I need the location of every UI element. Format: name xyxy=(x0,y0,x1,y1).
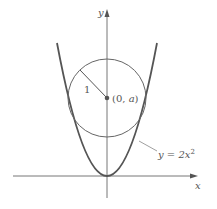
y-axis-arrow-icon xyxy=(105,9,110,17)
curve-leader-line xyxy=(139,141,157,151)
y-axis-label: y xyxy=(97,7,104,18)
curve-equation-text: y = 2x xyxy=(157,149,191,160)
x-axis-arrow-icon xyxy=(190,174,198,179)
radius-label: 1 xyxy=(84,84,90,95)
center-label-prefix: (0, xyxy=(112,93,129,104)
center-label-suffix: ) xyxy=(135,93,139,104)
curve-equation-exponent: 2 xyxy=(190,148,194,156)
center-label: (0, a) xyxy=(112,93,139,104)
center-point xyxy=(105,96,110,101)
diagram-canvas: y x 1 (0, a) y = 2x2 xyxy=(0,0,217,209)
curve-equation-label: y = 2x2 xyxy=(157,148,195,160)
x-axis-label: x xyxy=(195,180,201,191)
